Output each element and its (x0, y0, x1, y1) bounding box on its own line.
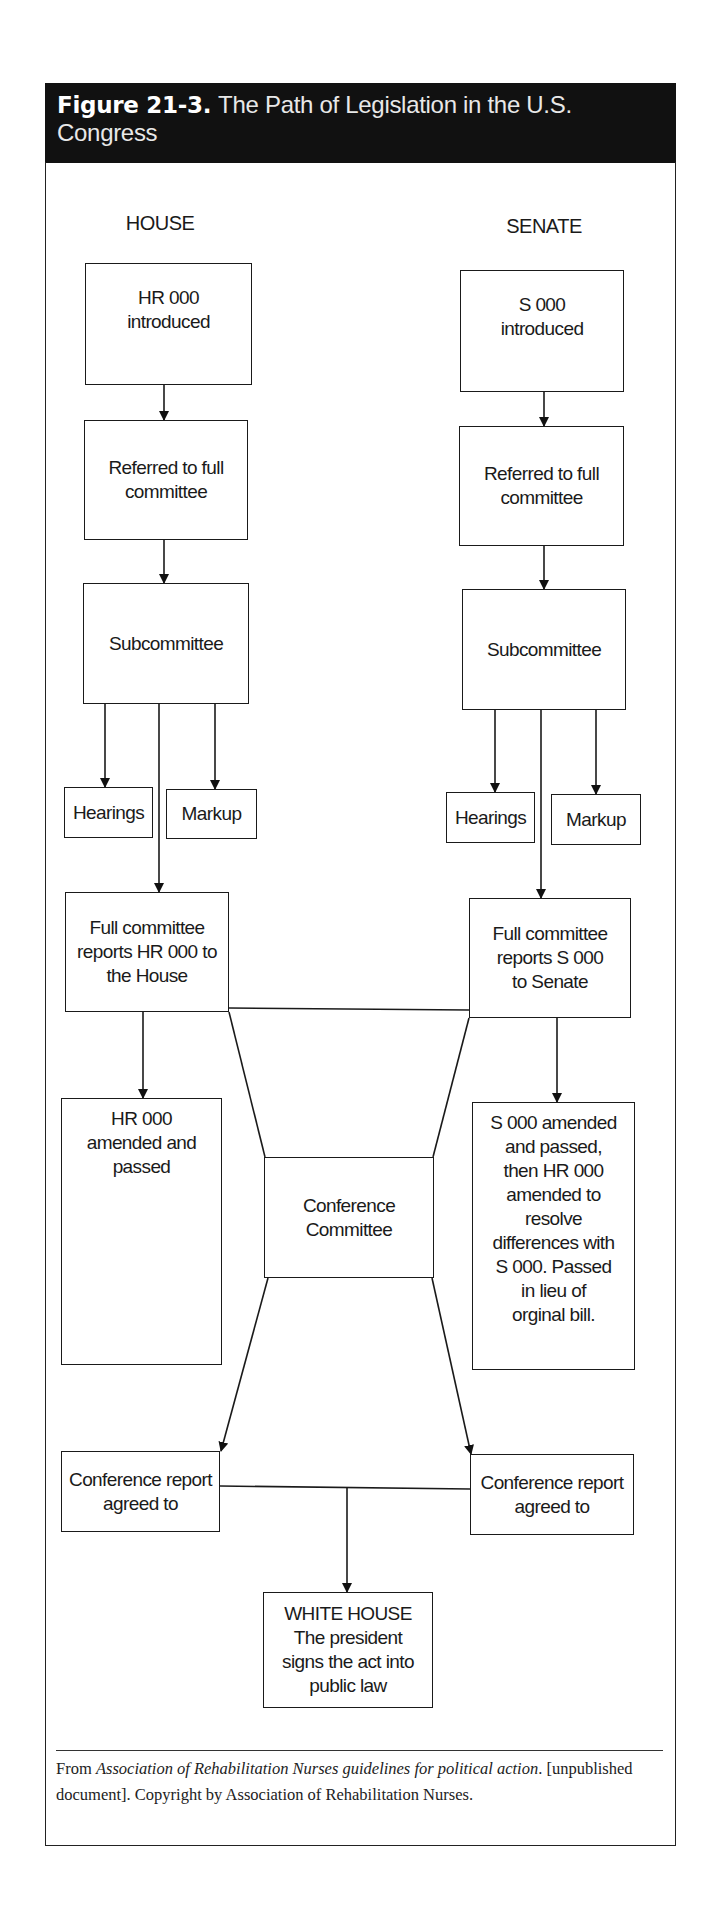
source-prefix: From (56, 1759, 96, 1778)
senate-full-committee-box: Full committee reports S 000 to Senate (469, 898, 631, 1018)
house-subcommittee-text: Subcommittee (109, 632, 223, 656)
house-introduced-text: HR 000 introduced (127, 286, 210, 334)
senate-amended-box: S 000 amended and passed, then HR 000 am… (472, 1102, 635, 1370)
senate-referred-box: Referred to full committee (459, 426, 624, 546)
senate-conference-report-box: Conference report agreed to (470, 1454, 634, 1535)
house-amended-text: HR 000 amended and passed (87, 1107, 197, 1179)
house-conference-report-box: Conference report agreed to (61, 1451, 220, 1532)
conference-committee-text: Conference Committee (303, 1194, 395, 1242)
house-conference-report-text: Conference report agreed to (69, 1468, 212, 1516)
house-referred-box: Referred to full committee (84, 420, 248, 540)
senate-subcommittee-box: Subcommittee (462, 589, 626, 710)
senate-subcommittee-text: Subcommittee (487, 638, 601, 662)
house-full-committee-box: Full committee reports HR 000 to the Hou… (65, 892, 229, 1012)
white-house-box: WHITE HOUSE The president signs the act … (263, 1592, 433, 1708)
white-house-text: WHITE HOUSE The president signs the act … (282, 1602, 414, 1698)
house-hearings-box: Hearings (64, 787, 153, 838)
house-heading: HOUSE (126, 212, 195, 235)
senate-amended-text: S 000 amended and passed, then HR 000 am… (490, 1111, 616, 1327)
house-amended-box: HR 000 amended and passed (61, 1098, 222, 1365)
senate-introduced-text: S 000 introduced (501, 293, 584, 341)
house-full-committee-text: Full committee reports HR 000 to the Hou… (77, 916, 217, 988)
house-introduced-box: HR 000 introduced (85, 263, 252, 385)
senate-markup-box: Markup (551, 794, 641, 845)
senate-referred-text: Referred to full committee (484, 462, 599, 510)
house-hearings-text: Hearings (73, 801, 144, 825)
senate-markup-text: Markup (566, 808, 626, 832)
house-subcommittee-box: Subcommittee (83, 583, 249, 704)
house-markup-box: Markup (166, 789, 257, 839)
source-title: Association of Rehabilitation Nurses gui… (96, 1759, 538, 1778)
conference-committee-box: Conference Committee (264, 1157, 434, 1278)
senate-heading: SENATE (506, 215, 582, 238)
senate-introduced-box: S 000 introduced (460, 270, 624, 392)
senate-conference-report-text: Conference report agreed to (481, 1471, 624, 1519)
house-markup-text: Markup (182, 802, 242, 826)
house-referred-text: Referred to full committee (108, 456, 223, 504)
senate-hearings-text: Hearings (455, 806, 526, 830)
senate-full-committee-text: Full committee reports S 000 to Senate (492, 922, 607, 994)
source-note: From Association of Rehabilitation Nurse… (56, 1756, 668, 1808)
source-divider (56, 1750, 663, 1751)
senate-hearings-box: Hearings (446, 792, 535, 843)
